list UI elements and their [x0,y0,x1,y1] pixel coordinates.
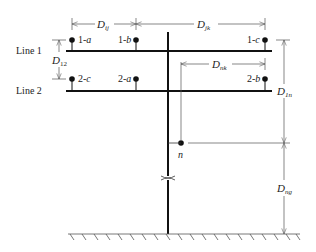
conductor-1a [69,37,75,43]
line-1-label: Line 1 [16,45,42,56]
conductor-1c [262,37,268,43]
conductor-1a-label: 1-a [78,34,91,45]
conductor-1b [133,37,139,43]
conductor-2b [262,76,268,82]
dim-dij-label: Dij [96,18,109,32]
neutral-label: n [178,149,183,160]
line-2-label: Line 2 [16,85,42,96]
conductor-1b-label: 1-b [118,34,131,45]
dim-djk-label: Djk [196,18,211,32]
ground-symbol [68,234,300,240]
conductor-2a-label: 2-a [118,73,131,84]
dim-dnk-label: Dnk [211,58,227,72]
conductor-2a [133,76,139,82]
dim-d12-label: D12 [51,54,67,68]
conductor-2c [69,76,75,82]
conductor-2c-label: 2-c [78,73,91,84]
dim-d1n-label: D1n [276,85,292,99]
pole-conductor-diagram: Line 1 Line 2 1-a 1-b 1-c 2-c 2-a 2-b n [0,0,316,252]
pole-break-icon [161,176,175,180]
dim-dng-label: Dng [276,182,292,196]
conductor-1c-label: 1-c [247,34,260,45]
conductor-2b-label: 2-b [247,73,260,84]
